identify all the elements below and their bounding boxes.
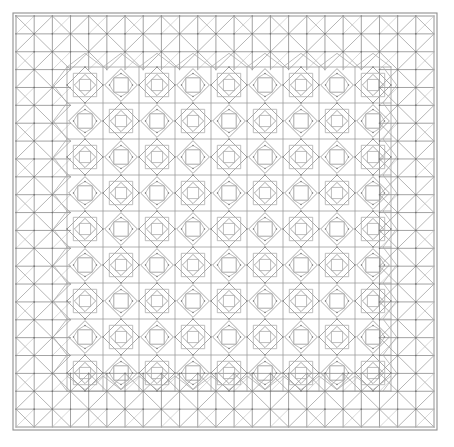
pattern-canvas — [0, 0, 454, 447]
geometric-pattern-artwork — [0, 0, 454, 447]
